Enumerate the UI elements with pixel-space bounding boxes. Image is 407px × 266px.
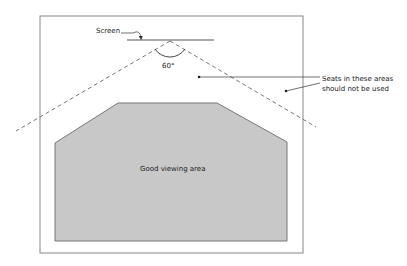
angle-label: 60° <box>162 62 174 70</box>
screen-label: Screen <box>96 27 120 35</box>
diagram-canvas <box>0 0 407 266</box>
screen-leader-arrow <box>121 32 141 38</box>
restricted-seats-line2: should not be used <box>322 84 393 94</box>
good-viewing-area-label: Good viewing area <box>140 165 205 173</box>
angle-arc <box>155 49 185 57</box>
restricted-seats-label: Seats in these areas should not be used <box>322 74 393 94</box>
restricted-dot-top <box>198 76 201 79</box>
restricted-dot-right <box>285 90 288 93</box>
restricted-seats-line1: Seats in these areas <box>322 74 393 84</box>
